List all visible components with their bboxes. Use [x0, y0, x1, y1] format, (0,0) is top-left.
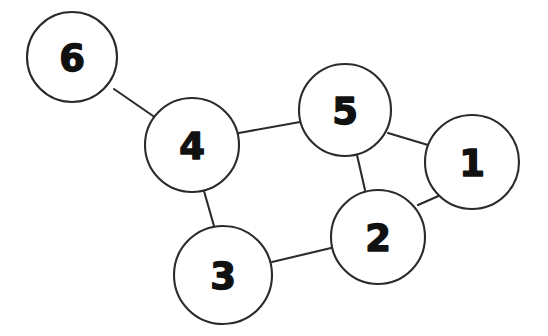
graph-svg: 6 4 5 1 2 3	[0, 0, 548, 336]
graph-node-2[interactable]: 2	[331, 190, 425, 284]
node-label-2: 2	[365, 217, 391, 260]
graph-node-3[interactable]: 3	[174, 226, 272, 324]
graph-node-6[interactable]: 6	[27, 12, 117, 102]
node-label-4: 4	[179, 125, 205, 168]
graph-node-5[interactable]: 5	[299, 64, 391, 156]
edge-5-1	[388, 133, 428, 145]
edge-4-5	[239, 122, 300, 133]
edge-6-4	[114, 89, 156, 118]
edge-5-2	[357, 155, 365, 190]
node-label-1: 1	[459, 142, 485, 185]
edge-4-3	[204, 191, 214, 226]
graph-node-1[interactable]: 1	[425, 115, 519, 209]
node-label-3: 3	[210, 255, 236, 298]
edge-2-3	[272, 248, 331, 262]
node-label-5: 5	[332, 90, 358, 133]
graph-node-4[interactable]: 4	[145, 98, 239, 192]
node-label-6: 6	[59, 37, 85, 80]
diagram-canvas: 6 4 5 1 2 3	[0, 0, 548, 336]
node-layer: 6 4 5 1 2 3	[27, 12, 519, 324]
